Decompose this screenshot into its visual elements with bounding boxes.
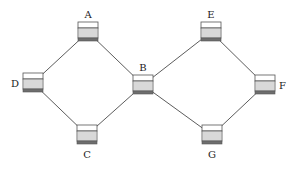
node-a xyxy=(78,22,98,41)
server-rack-icon xyxy=(202,125,222,144)
nodes xyxy=(23,22,275,144)
node-f xyxy=(255,75,275,94)
node-label-d: D xyxy=(11,78,19,89)
node-label-f: F xyxy=(279,80,286,91)
network-diagram: ABCDEFG xyxy=(0,0,290,170)
node-label-a: A xyxy=(83,9,92,20)
node-b xyxy=(133,75,153,94)
server-rack-icon xyxy=(255,75,275,94)
node-e xyxy=(201,22,221,41)
node-label-b: B xyxy=(139,62,146,73)
node-c xyxy=(77,125,97,144)
server-rack-icon xyxy=(133,75,153,94)
server-rack-icon xyxy=(78,22,98,41)
server-rack-icon xyxy=(77,125,97,144)
node-label-e: E xyxy=(207,9,214,20)
server-rack-icon xyxy=(23,73,43,92)
server-rack-icon xyxy=(201,22,221,41)
node-g xyxy=(202,125,222,144)
node-d xyxy=(23,73,43,92)
node-label-c: C xyxy=(83,149,91,160)
node-label-g: G xyxy=(208,149,216,160)
